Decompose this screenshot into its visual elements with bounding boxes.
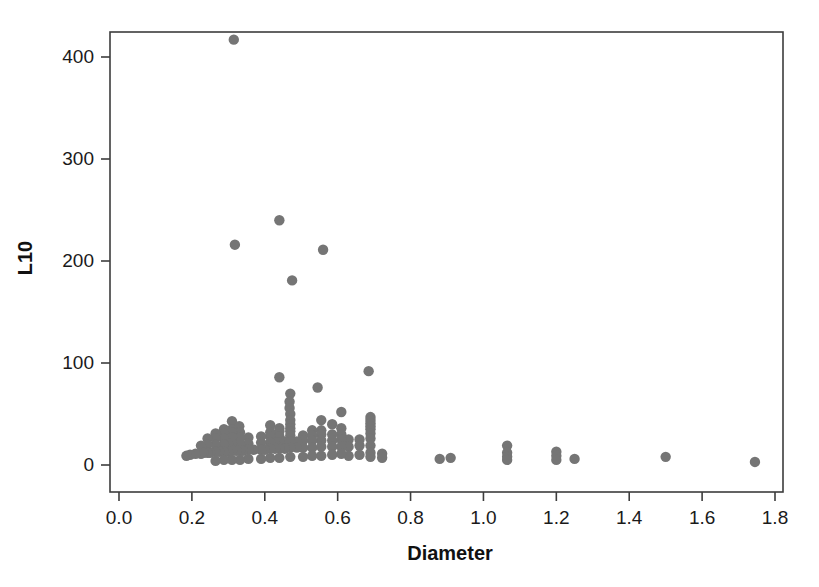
plot-frame-box — [110, 32, 783, 492]
data-point — [445, 453, 455, 463]
plot-canvas: 0.00.20.40.60.81.01.21.41.61.8 010020030… — [0, 0, 819, 587]
data-points-layer — [181, 34, 760, 467]
data-point — [336, 449, 346, 459]
data-point — [285, 452, 295, 462]
y-tick-label: 300 — [62, 148, 94, 169]
data-point — [569, 454, 579, 464]
x-tick-label: 1.8 — [762, 507, 788, 528]
y-tick-label: 100 — [62, 352, 94, 373]
x-tick-label: 0.6 — [324, 507, 350, 528]
y-axis-title: L10 — [14, 241, 36, 275]
data-point — [551, 455, 561, 465]
data-point — [256, 454, 266, 464]
data-point — [316, 451, 326, 461]
data-point — [316, 441, 326, 451]
x-axis-ticks: 0.00.20.40.60.81.01.21.41.61.8 — [106, 492, 788, 528]
x-tick-label: 1.6 — [689, 507, 715, 528]
data-point — [265, 453, 275, 463]
plot-frame — [110, 32, 783, 492]
data-point — [274, 372, 284, 382]
data-point — [660, 452, 670, 462]
data-point — [327, 419, 337, 429]
x-tick-label: 0.8 — [397, 507, 423, 528]
y-axis-ticks: 0100200300400 — [62, 46, 110, 475]
x-tick-label: 1.4 — [616, 507, 643, 528]
data-point — [307, 451, 317, 461]
x-tick-label: 1.0 — [470, 507, 496, 528]
data-point — [318, 245, 328, 255]
data-point — [502, 455, 512, 465]
data-point — [287, 275, 297, 285]
x-tick-label: 1.2 — [543, 507, 569, 528]
data-point — [230, 239, 240, 249]
data-point — [181, 451, 191, 461]
x-axis-title: Diameter — [407, 542, 493, 564]
data-point — [363, 366, 373, 376]
data-point — [354, 450, 364, 460]
y-tick-label: 200 — [62, 250, 94, 271]
x-tick-label: 0.4 — [252, 507, 279, 528]
data-point — [316, 415, 326, 425]
data-point — [365, 452, 375, 462]
data-point — [336, 407, 346, 417]
data-point — [229, 34, 239, 44]
data-point — [377, 453, 387, 463]
data-point — [354, 440, 364, 450]
data-point — [327, 450, 337, 460]
data-point — [435, 454, 445, 464]
data-point — [750, 457, 760, 467]
data-point — [312, 382, 322, 392]
x-tick-label: 0.0 — [106, 507, 132, 528]
y-tick-label: 400 — [62, 46, 94, 67]
scatter-plot-figure: 0.00.20.40.60.81.01.21.41.61.8 010020030… — [0, 0, 819, 587]
data-point — [210, 456, 220, 466]
x-tick-label: 0.2 — [179, 507, 205, 528]
data-point — [298, 452, 308, 462]
y-tick-label: 0 — [83, 454, 94, 475]
data-point — [274, 453, 284, 463]
data-point — [274, 215, 284, 225]
